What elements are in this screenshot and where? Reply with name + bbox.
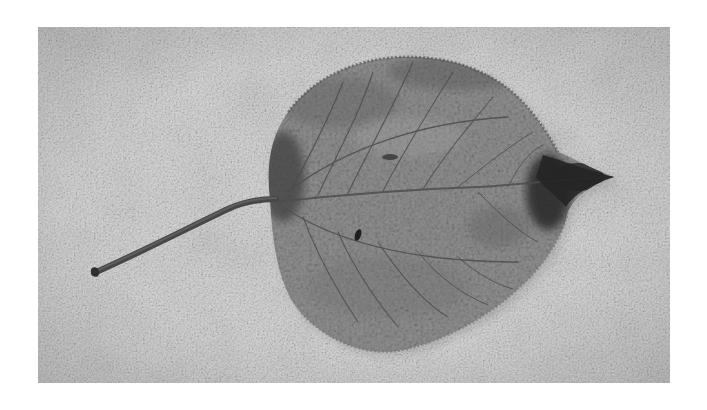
page [0, 0, 707, 410]
leaf-photo-svg [38, 27, 670, 383]
leaf-photograph [38, 27, 670, 383]
